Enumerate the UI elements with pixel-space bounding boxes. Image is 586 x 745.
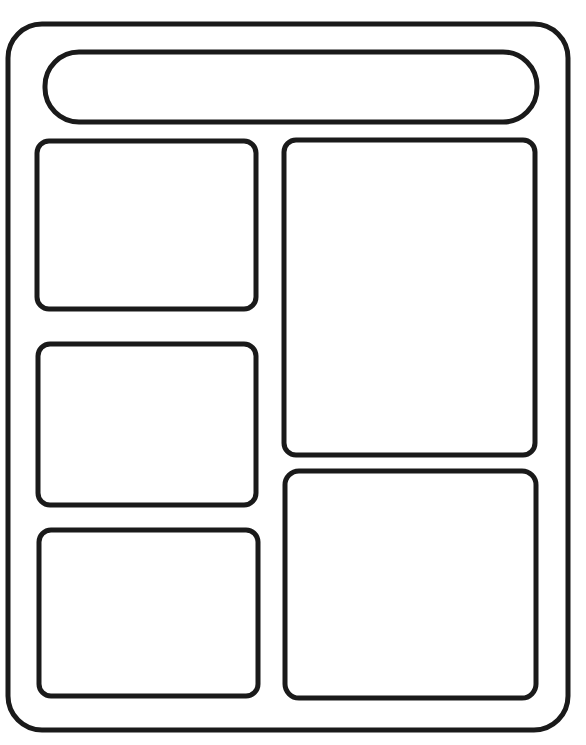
panel-right-top <box>284 140 535 455</box>
panel-left-top <box>37 141 256 309</box>
outer-frame <box>8 24 568 730</box>
header-bar <box>45 52 537 122</box>
panel-right-bottom <box>285 471 536 698</box>
panel-left-middle <box>38 344 256 505</box>
panel-left-bottom <box>39 530 258 696</box>
wireframe-sketch <box>0 0 586 745</box>
